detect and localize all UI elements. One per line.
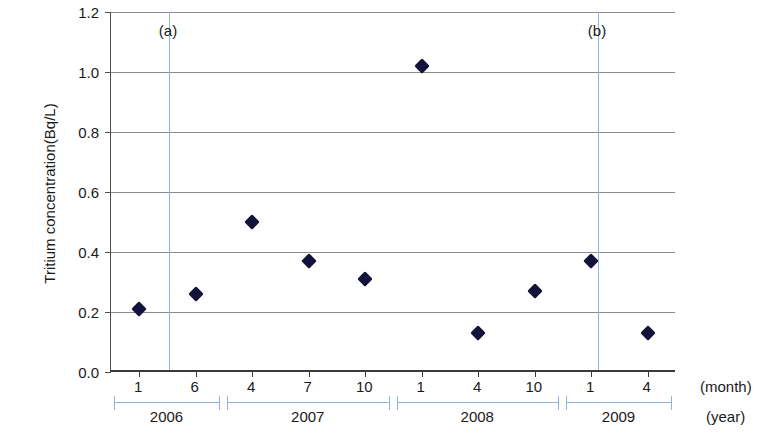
y-axis-tick-label: 0.4	[39, 245, 99, 260]
year-label: 2009	[579, 408, 659, 425]
year-label: 2008	[437, 408, 517, 425]
y-axis-tick	[105, 12, 111, 13]
x-axis-tick-label: 10	[514, 378, 554, 395]
x-axis-tick	[648, 370, 649, 377]
x-axis-month-unit-label: (month)	[700, 378, 752, 395]
x-axis-tick	[196, 370, 197, 377]
x-axis-tick	[422, 370, 423, 377]
plot-area	[110, 12, 675, 372]
year-bracket-tick	[397, 396, 398, 410]
data-point	[640, 325, 656, 341]
data-point	[583, 253, 599, 269]
data-point	[244, 214, 260, 230]
year-label: 2007	[268, 408, 348, 425]
x-axis-tick-label: 10	[344, 378, 384, 395]
x-axis-tick-label: 1	[118, 378, 158, 395]
x-axis-year-unit-label: (year)	[706, 408, 745, 425]
y-axis-tick-label: 0.0	[39, 365, 99, 380]
y-axis-tick-label: 0.2	[39, 305, 99, 320]
gridline	[111, 12, 675, 13]
gridline	[111, 192, 675, 193]
x-axis-tick-label: 4	[457, 378, 497, 395]
data-point	[470, 325, 486, 341]
year-bracket-tick	[114, 396, 115, 410]
x-axis-tick	[309, 370, 310, 377]
y-axis-tick-label: 1.0	[39, 65, 99, 80]
data-point	[527, 283, 543, 299]
y-axis-tick	[105, 132, 111, 133]
y-axis-tick	[105, 312, 111, 313]
year-bracket-tick	[566, 396, 567, 410]
x-axis-tick	[591, 370, 592, 377]
data-point	[131, 301, 147, 317]
x-axis-tick-label: 1	[570, 378, 610, 395]
event-marker-line	[598, 12, 599, 370]
x-axis-tick-label: 1	[401, 378, 441, 395]
year-bracket-tick	[227, 396, 228, 410]
x-axis-tick-label: 4	[627, 378, 667, 395]
y-axis-tick-label: 1.2	[39, 5, 99, 20]
y-axis-tick-label: 0.6	[39, 185, 99, 200]
x-axis-tick	[139, 370, 140, 377]
x-axis-tick-label: 4	[231, 378, 271, 395]
x-axis-tick	[252, 370, 253, 377]
y-axis-tick	[105, 252, 111, 253]
event-marker-label: (a)	[159, 22, 177, 39]
y-axis-tick	[105, 372, 111, 373]
year-bracket	[566, 402, 671, 403]
event-marker-line	[169, 12, 170, 370]
gridline	[111, 132, 675, 133]
y-axis-tick-label: 0.8	[39, 125, 99, 140]
x-axis-tick-label: 7	[288, 378, 328, 395]
year-bracket	[397, 402, 559, 403]
year-label: 2006	[127, 408, 207, 425]
year-bracket-tick	[671, 396, 672, 410]
x-axis-tick-label: 6	[175, 378, 215, 395]
tritium-concentration-chart: Tritium concentration(Bq/L) (month) (yea…	[0, 0, 781, 435]
data-point	[301, 253, 317, 269]
y-axis-tick	[105, 72, 111, 73]
year-bracket-tick	[219, 396, 220, 410]
year-bracket	[114, 402, 219, 403]
data-point	[357, 271, 373, 287]
x-axis-tick	[478, 370, 479, 377]
x-axis-tick	[365, 370, 366, 377]
x-axis-tick	[535, 370, 536, 377]
data-point	[188, 286, 204, 302]
event-marker-label: (b)	[588, 22, 606, 39]
y-axis-tick	[105, 192, 111, 193]
year-bracket-tick	[558, 396, 559, 410]
gridline	[111, 72, 675, 73]
year-bracket-tick	[389, 396, 390, 410]
gridline	[111, 312, 675, 313]
year-bracket	[227, 402, 389, 403]
